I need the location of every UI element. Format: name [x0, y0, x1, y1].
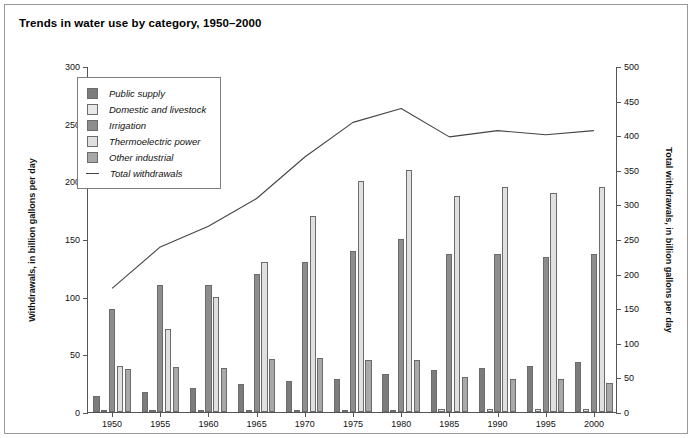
chart-title: Trends in water use by category, 1950–20…: [19, 17, 261, 29]
axis-tick-label: 150: [65, 235, 80, 245]
legend-item: Thermoelectric power: [87, 133, 206, 149]
legend-swatch: [87, 88, 98, 99]
axis-tick-label: 300: [624, 200, 639, 210]
x-axis-tick-label: 1970: [295, 419, 315, 429]
legend-swatch: [87, 136, 98, 147]
x-axis-tick-label: 2000: [584, 419, 604, 429]
axis-tick-label: 0: [624, 408, 629, 418]
axis-tick-label: 500: [624, 62, 639, 72]
x-axis-tick-label: 1980: [391, 419, 411, 429]
axis-tick: [616, 413, 621, 414]
legend-item: Irrigation: [87, 117, 206, 133]
x-axis-tick-label: 1990: [488, 419, 508, 429]
left-axis-title-text: Withdrawals, in billion gallons per day: [27, 158, 37, 321]
x-axis-tick-label: 1960: [198, 419, 218, 429]
legend-item-label: Thermoelectric power: [109, 136, 200, 147]
axis-tick-label: 300: [65, 62, 80, 72]
legend-swatch: [87, 120, 98, 131]
legend-item-label: Total withdrawals: [110, 168, 183, 179]
legend-item-label: Public supply: [109, 88, 165, 99]
legend-item-label: Domestic and livestock: [109, 104, 206, 115]
axis-tick-label: 0: [75, 408, 80, 418]
legend-item-label: Other industrial: [109, 152, 173, 163]
axis-tick-label: 200: [624, 270, 639, 280]
legend-item: Other industrial: [87, 149, 206, 165]
left-axis-title: Withdrawals, in billion gallons per day: [25, 67, 39, 413]
figure-frame: Trends in water use by category, 1950–20…: [4, 4, 688, 434]
chart-legend: Public supplyDomestic and livestockIrrig…: [77, 77, 221, 189]
legend-line-marker: [86, 173, 99, 174]
x-axis-tick-label: 1965: [247, 419, 267, 429]
legend-item-label: Irrigation: [109, 120, 146, 131]
x-axis-tick-label: 1955: [150, 419, 170, 429]
legend-swatch: [87, 104, 98, 115]
axis-tick-label: 250: [624, 235, 639, 245]
x-axis-tick-label: 1985: [439, 419, 459, 429]
axis-tick-label: 50: [624, 373, 634, 383]
axis-tick-label: 100: [624, 339, 639, 349]
x-axis-tick-label: 1995: [536, 419, 556, 429]
axis-tick-label: 400: [624, 131, 639, 141]
right-axis-title: Total withdrawals, in billion gallons pe…: [662, 67, 676, 413]
axis-tick-label: 450: [624, 97, 639, 107]
axis-tick-label: 350: [624, 166, 639, 176]
axis-tick-label: 50: [70, 350, 80, 360]
legend-item: Domestic and livestock: [87, 101, 206, 117]
x-axis-tick-label: 1975: [343, 419, 363, 429]
axis-tick: [83, 413, 88, 414]
legend-item: Public supply: [87, 85, 206, 101]
legend-swatch: [87, 152, 98, 163]
legend-item: Total withdrawals: [87, 165, 206, 181]
axis-tick-label: 150: [624, 304, 639, 314]
x-axis-tick-label: 1950: [102, 419, 122, 429]
right-axis-title-text: Total withdrawals, in billion gallons pe…: [664, 147, 674, 332]
axis-tick-label: 100: [65, 293, 80, 303]
